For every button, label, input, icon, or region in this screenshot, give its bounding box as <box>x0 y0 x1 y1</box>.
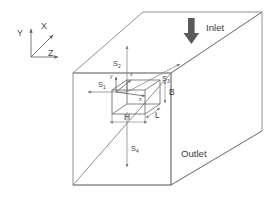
enclosure-top-face <box>73 12 262 73</box>
figure-root: Y X Z Inlet Outlet <box>0 0 276 197</box>
stations-group: S 2 S 4 S 1 S 3 <box>88 46 180 167</box>
dimensions-group: H B L <box>110 81 175 124</box>
global-z-axis-label: Z <box>48 48 54 58</box>
inner-block-group <box>112 80 160 114</box>
station-s2-subscript: 2 <box>118 63 121 69</box>
inlet-arrow-icon <box>184 18 200 44</box>
station-s4-subscript: 4 <box>136 148 139 154</box>
enclosure-block-diagram: Y X Z Inlet Outlet <box>0 0 276 197</box>
dimension-l-label: L <box>155 110 160 120</box>
dimension-h-label: H <box>124 112 130 122</box>
inlet-label: Inlet <box>206 22 224 33</box>
global-y-axis-label: Y <box>17 28 23 38</box>
local-z-axis-label: z <box>139 96 142 102</box>
inlet-group: Inlet <box>184 18 225 44</box>
dimension-b-label: B <box>169 87 175 97</box>
local-axes-group: y x z <box>110 71 145 102</box>
local-x-axis-label: x <box>130 71 133 77</box>
global-axes-group: Y X Z <box>17 21 58 58</box>
outlet-label: Outlet <box>181 148 207 159</box>
enclosure-group <box>73 12 262 185</box>
global-x-axis-label: X <box>41 21 47 31</box>
outlet-group: Outlet <box>181 148 207 159</box>
local-y-axis-label: y <box>110 73 113 79</box>
station-s1-subscript: 1 <box>103 84 106 90</box>
enclosure-right-face <box>171 12 262 185</box>
station-s3-subscript: 3 <box>167 78 170 84</box>
